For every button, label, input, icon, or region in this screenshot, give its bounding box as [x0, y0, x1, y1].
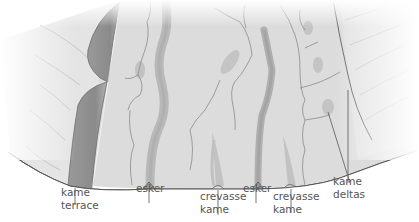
label-crevasse-kame-1: crevasse kame [200, 190, 246, 216]
label-esker-1: esker [136, 182, 164, 195]
label-crevasse-kame-2: crevasse kame [273, 190, 319, 216]
label-kame-terrace: kame terrace [61, 186, 99, 212]
label-kame-deltas: kame deltas [333, 175, 365, 201]
kame-mound [313, 57, 323, 73]
label-esker-2: esker [243, 182, 271, 195]
kame-mound [303, 21, 313, 35]
diagram-canvas: kame terrace esker crevasse kame esker c… [0, 0, 419, 222]
